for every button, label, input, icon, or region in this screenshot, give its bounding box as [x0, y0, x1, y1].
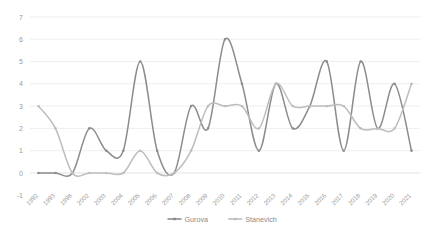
data-point-marker — [71, 172, 73, 174]
data-point-marker — [122, 150, 124, 152]
x-tick-label: 2015 — [296, 191, 311, 206]
x-tick-label: 1992 — [25, 191, 40, 206]
y-tick-label: -1 — [17, 192, 23, 199]
legend-label: Stanevich — [245, 215, 277, 224]
x-tick-label: 2005 — [126, 191, 141, 206]
series-gurova — [37, 38, 412, 176]
x-axis-labels: 1992199319982002200320042005200620072008… — [25, 191, 413, 206]
data-point-marker — [343, 150, 345, 152]
data-point-marker — [54, 127, 56, 129]
data-point-marker — [105, 150, 107, 152]
y-tick-label: 2 — [19, 125, 23, 132]
x-tick-label: 2017 — [330, 191, 345, 206]
y-tick-label: 0 — [19, 170, 23, 177]
x-tick-label: 2007 — [160, 191, 175, 206]
x-tick-label: 2011 — [228, 191, 243, 206]
data-point-marker — [156, 150, 158, 152]
data-point-marker — [190, 150, 192, 152]
x-tick-label: 2014 — [279, 191, 294, 206]
plot-area: 01234567-1199219931998200220032004200520… — [0, 0, 428, 235]
data-point-marker — [37, 105, 39, 107]
data-point-marker — [88, 172, 90, 174]
y-tick-label: 6 — [19, 36, 23, 43]
data-point-marker — [122, 172, 124, 174]
data-point-marker — [224, 105, 226, 107]
chart-legend: GurovaStanevich — [168, 215, 277, 224]
y-tick-label: 7 — [19, 14, 23, 21]
x-tick-label: 2021 — [398, 191, 413, 206]
data-point-marker — [241, 83, 243, 85]
x-tick-label: 2012 — [245, 191, 260, 206]
data-point-marker — [410, 150, 412, 152]
x-tick-label: 2003 — [92, 191, 107, 206]
data-point-marker — [292, 105, 294, 107]
y-tick-label: 3 — [19, 103, 23, 110]
x-tick-label: 2009 — [194, 191, 209, 206]
legend-item-stanevich[interactable]: Stanevich — [228, 215, 277, 224]
x-tick-label: 1998 — [58, 191, 73, 206]
line-chart: 01234567-1199219931998200220032004200520… — [0, 0, 428, 235]
data-point-marker — [360, 127, 362, 129]
data-point-marker — [224, 38, 226, 40]
x-tick-label: 2018 — [347, 191, 362, 206]
series-line — [38, 38, 411, 176]
data-point-marker — [156, 172, 158, 174]
legend-marker — [173, 218, 176, 220]
data-point-marker — [173, 172, 175, 174]
data-point-marker — [105, 172, 107, 174]
legend-label: Gurova — [185, 215, 209, 224]
legend-item-gurova[interactable]: Gurova — [168, 215, 209, 224]
x-tick-label: 2013 — [262, 191, 277, 206]
data-point-marker — [326, 105, 328, 107]
x-tick-label: 2019 — [364, 191, 379, 206]
data-point-marker — [377, 127, 379, 129]
data-point-marker — [309, 105, 311, 107]
data-point-marker — [54, 172, 56, 174]
data-point-marker — [410, 83, 412, 85]
data-point-marker — [326, 60, 328, 62]
data-point-marker — [258, 150, 260, 152]
data-point-marker — [258, 127, 260, 129]
data-point-marker — [37, 172, 39, 174]
x-tick-label: 2006 — [143, 191, 158, 206]
x-tick-label: 2010 — [211, 191, 226, 206]
data-point-marker — [88, 127, 90, 129]
chart-canvas: 01234567-1199219931998200220032004200520… — [0, 0, 428, 235]
data-point-marker — [207, 127, 209, 129]
x-tick-label: 1993 — [41, 191, 56, 206]
y-gridlines: 01234567-1 — [17, 14, 420, 199]
x-tick-label: 2002 — [75, 191, 90, 206]
data-point-marker — [393, 127, 395, 129]
data-point-marker — [139, 150, 141, 152]
data-point-marker — [292, 127, 294, 129]
y-tick-label: 5 — [19, 58, 23, 65]
data-point-marker — [241, 105, 243, 107]
data-point-marker — [360, 60, 362, 62]
x-tick-label: 2004 — [109, 191, 124, 206]
data-point-marker — [190, 105, 192, 107]
data-point-marker — [275, 83, 277, 85]
y-tick-label: 1 — [19, 147, 23, 154]
y-tick-label: 4 — [19, 80, 23, 87]
data-point-marker — [139, 60, 141, 62]
data-point-marker — [207, 105, 209, 107]
data-point-marker — [343, 105, 345, 107]
x-tick-label: 2016 — [313, 191, 328, 206]
x-tick-label: 2008 — [177, 191, 192, 206]
legend-marker — [234, 218, 237, 220]
data-point-marker — [393, 83, 395, 85]
x-tick-label: 2020 — [381, 191, 396, 206]
